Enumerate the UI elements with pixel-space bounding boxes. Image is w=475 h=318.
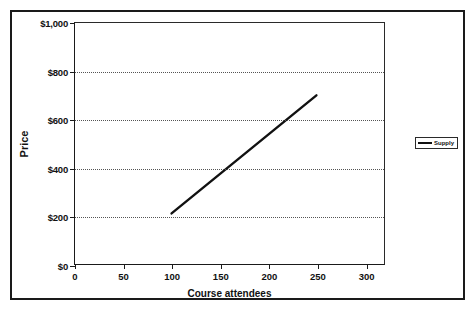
x-tick-100 — [172, 264, 173, 269]
series-line-layer — [75, 23, 384, 264]
figure-frame: Price $0$200$400$600$800$1,0000501001502… — [10, 10, 465, 300]
x-tick-200 — [269, 264, 270, 269]
y-tick-label-400: $400 — [48, 163, 68, 174]
x-tick-250 — [318, 264, 319, 269]
gridline-800 — [75, 72, 384, 73]
y-tick-label-1000: $1,000 — [40, 18, 68, 29]
y-tick-600 — [70, 120, 75, 121]
x-tick-0 — [75, 264, 76, 269]
x-axis-title-label: Course attendees — [188, 288, 272, 299]
chart-area: Price $0$200$400$600$800$1,0000501001502… — [12, 12, 467, 302]
x-axis-title: Course attendees — [74, 288, 385, 299]
legend-label-supply: Supply — [434, 140, 454, 146]
x-tick-label-250: 250 — [310, 271, 326, 282]
y-tick-1000 — [70, 23, 75, 24]
gridline-400 — [75, 169, 384, 170]
x-tick-label-200: 200 — [261, 271, 277, 282]
chart-legend[interactable]: Supply — [415, 137, 458, 149]
x-tick-50 — [124, 264, 125, 269]
y-tick-label-800: $800 — [48, 66, 68, 77]
y-tick-200 — [70, 217, 75, 218]
y-tick-label-600: $600 — [48, 115, 68, 126]
x-tick-label-100: 100 — [164, 271, 180, 282]
y-tick-label-0: $0 — [58, 261, 68, 272]
x-tick-label-0: 0 — [72, 271, 77, 282]
y-axis-title-label: Price — [18, 130, 30, 157]
y-axis-title: Price — [16, 22, 32, 265]
x-tick-label-50: 50 — [118, 271, 129, 282]
x-tick-300 — [367, 264, 368, 269]
y-tick-label-200: $200 — [48, 212, 68, 223]
gridline-600 — [75, 120, 384, 121]
y-tick-800 — [70, 72, 75, 73]
series-line-supply — [172, 95, 317, 213]
x-tick-label-300: 300 — [359, 271, 375, 282]
y-tick-400 — [70, 169, 75, 170]
plot-area: $0$200$400$600$800$1,0000501001502002503… — [74, 22, 385, 265]
legend-swatch-supply — [418, 142, 432, 144]
x-tick-150 — [221, 264, 222, 269]
gridline-200 — [75, 217, 384, 218]
x-tick-label-150: 150 — [213, 271, 229, 282]
